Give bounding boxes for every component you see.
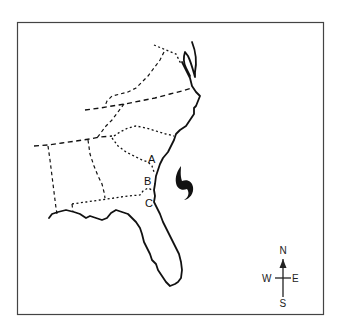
location-label-c: C [145, 197, 153, 209]
location-label-b: B [144, 175, 151, 187]
compass-n: N [280, 245, 287, 256]
compass-w: W [262, 273, 272, 284]
map-frame [18, 23, 324, 315]
compass-s: S [280, 298, 287, 309]
map-figure: A B C N S W E [0, 0, 340, 333]
location-label-a: A [148, 153, 156, 165]
compass-e: E [292, 273, 299, 284]
